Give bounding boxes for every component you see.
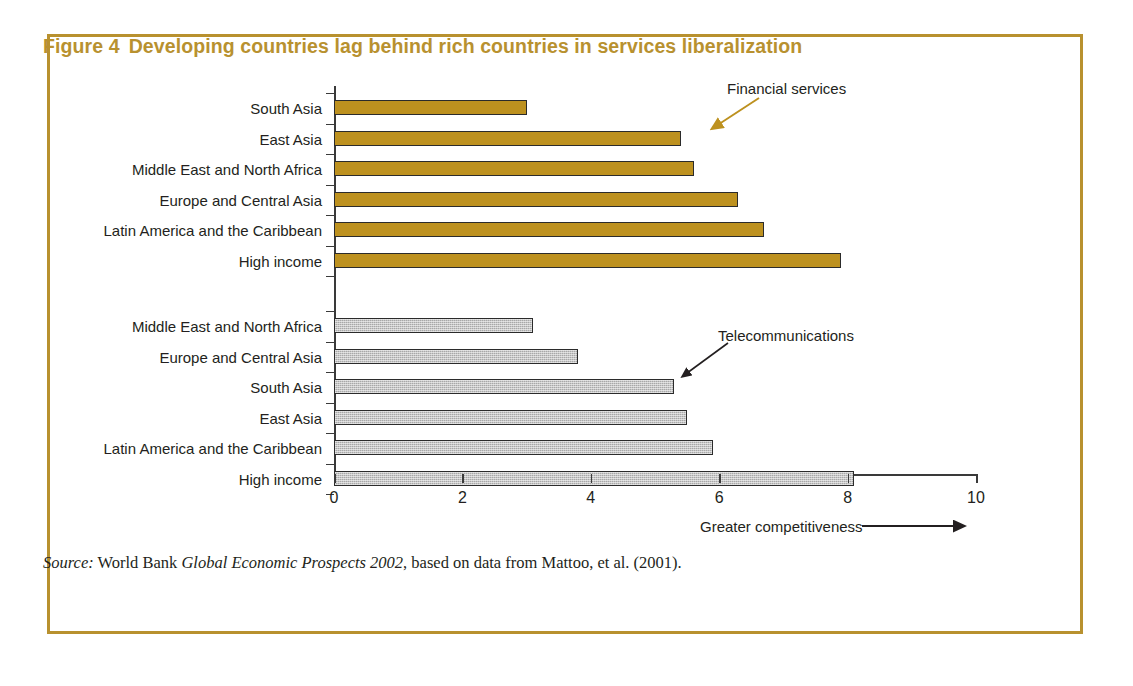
x-axis-tick (462, 474, 464, 483)
category-label: High income (0, 472, 322, 487)
y-axis-tick (326, 372, 334, 373)
y-axis-tick (326, 311, 334, 312)
source-note: Source: World Bank Global Economic Prosp… (43, 553, 682, 573)
bar-telecom (334, 410, 687, 425)
bar-financial (334, 253, 841, 268)
axis-direction-note: Greater competitiveness (700, 519, 863, 534)
y-axis-tick (326, 93, 334, 94)
category-label: East Asia (0, 132, 322, 147)
y-axis-tick (326, 342, 334, 343)
bar-telecom (334, 471, 854, 486)
category-label: East Asia (0, 411, 322, 426)
y-axis-tick (326, 215, 334, 216)
annotation-financial-services: Financial services (727, 81, 846, 96)
source-prefix: Source: (43, 553, 94, 572)
category-label: Latin America and the Caribbean (0, 223, 322, 238)
category-label: Middle East and North Africa (0, 162, 322, 177)
x-axis-tick-label: 10 (956, 490, 996, 506)
x-axis-tick (976, 474, 978, 483)
x-axis-tick-label: 2 (442, 490, 482, 506)
chart-plot-area: South AsiaEast AsiaMiddle East and North… (0, 0, 1036, 600)
y-axis-tick (326, 185, 334, 186)
x-axis-tick (848, 474, 850, 483)
y-axis-tick (326, 246, 334, 247)
y-axis-tick (326, 154, 334, 155)
annotation-arrow-financial-icon (690, 95, 780, 155)
bar-financial (334, 192, 738, 207)
y-axis-tick (326, 464, 334, 465)
y-axis-tick (326, 403, 334, 404)
bar-financial (334, 131, 681, 146)
category-label: South Asia (0, 101, 322, 116)
bar-telecom (334, 318, 533, 333)
bar-telecom (334, 349, 578, 364)
x-axis-tick-label: 4 (571, 490, 611, 506)
axis-direction-arrow-icon (862, 517, 992, 537)
source-publisher: World Bank (98, 553, 178, 572)
x-axis-tick-label: 0 (314, 490, 354, 506)
y-axis-tick (326, 433, 334, 434)
bar-telecom (334, 440, 713, 455)
annotation-arrow-telecom-icon (660, 340, 750, 400)
bar-financial (334, 222, 764, 237)
category-label: South Asia (0, 380, 322, 395)
category-label: High income (0, 254, 322, 269)
y-axis-tick (326, 276, 334, 277)
category-label: Middle East and North Africa (0, 319, 322, 334)
source-rest: , based on data from Mattoo, et al. (200… (403, 553, 682, 572)
bar-financial (334, 161, 694, 176)
x-axis-tick-label: 8 (828, 490, 868, 506)
bar-financial (334, 100, 527, 115)
source-work-title: Global Economic Prospects 2002 (181, 553, 403, 572)
x-axis-tick (719, 474, 721, 483)
category-label: Europe and Central Asia (0, 193, 322, 208)
x-axis-tick (334, 474, 336, 483)
x-axis-tick (591, 474, 593, 483)
y-axis-tick (326, 124, 334, 125)
category-label: Europe and Central Asia (0, 350, 322, 365)
x-axis-tick-label: 6 (699, 490, 739, 506)
bar-telecom (334, 379, 674, 394)
category-label: Latin America and the Caribbean (0, 441, 322, 456)
